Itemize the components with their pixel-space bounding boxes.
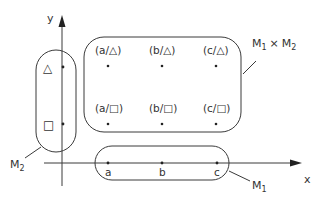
m2-point-triangle <box>62 66 65 69</box>
y-axis-arrow-icon <box>59 15 66 27</box>
pair-a-square-point <box>107 123 110 126</box>
m2-leader-line <box>25 147 41 158</box>
set-m2: △ □ M2 <box>10 50 76 173</box>
x-axis-arrow-icon <box>290 160 302 167</box>
pair-b-triangle: (b/△) <box>149 44 175 56</box>
pair-a-triangle-point <box>107 65 110 68</box>
product-label: M1×M2 <box>252 37 296 52</box>
m1-element-a: a <box>105 166 111 178</box>
m1-label: M1 <box>252 179 267 194</box>
pair-c-triangle: (c/△) <box>203 44 229 56</box>
m1-point-c <box>216 162 219 165</box>
m1-point-b <box>161 162 164 165</box>
product-leader-line <box>243 61 256 74</box>
set-m1: a b c M1 <box>95 146 267 194</box>
m1-element-c: c <box>214 166 220 178</box>
pair-b-square-point <box>161 123 164 126</box>
m1-leader-line <box>229 171 250 181</box>
set-m2-boundary <box>36 50 76 152</box>
pair-a-triangle: (a/△) <box>95 44 121 56</box>
pair-a-square: (a/□) <box>95 102 123 114</box>
m1-element-b: b <box>159 166 166 178</box>
m2-element-square: □ <box>43 118 54 132</box>
pair-c-square: (c/□) <box>203 102 230 114</box>
m2-label: M2 <box>10 158 25 173</box>
m2-point-square <box>62 123 65 126</box>
cartesian-product-diagram: x y △ □ M2 (a/△) (b/△) (c/△) (a/□) (b/□)… <box>0 0 318 197</box>
y-axis-label: y <box>47 12 54 25</box>
pair-c-triangle-point <box>215 65 218 68</box>
pair-b-triangle-point <box>161 65 164 68</box>
set-product: (a/△) (b/△) (c/△) (a/□) (b/□) (c/□) M1×M… <box>84 37 296 132</box>
m1-point-a <box>107 162 110 165</box>
pair-c-square-point <box>215 123 218 126</box>
m2-element-triangle: △ <box>43 61 53 75</box>
pair-b-square: (b/□) <box>149 102 177 114</box>
x-axis-label: x <box>304 173 311 186</box>
